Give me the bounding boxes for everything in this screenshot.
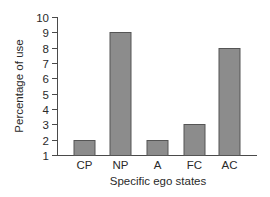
y-tick-label: 6 xyxy=(43,73,49,85)
bar-fc xyxy=(184,125,205,156)
y-tick-label: 2 xyxy=(43,135,49,147)
y-tick-label: 7 xyxy=(43,58,49,70)
y-tick-label: 3 xyxy=(43,119,49,131)
x-axis-title: Specific ego states xyxy=(110,175,207,187)
y-tick-label: 1 xyxy=(43,150,49,162)
y-tick-label: 9 xyxy=(43,27,49,39)
x-tick-label: AC xyxy=(222,159,238,171)
x-tick-label: NP xyxy=(113,159,129,171)
y-tick-label: 10 xyxy=(36,12,49,24)
bar-chart: 12345678910 CPNPAFCAC Percentage of use … xyxy=(0,0,270,197)
y-axis: 12345678910 xyxy=(36,12,57,162)
bar-a xyxy=(147,141,168,156)
x-axis: CPNPAFCAC xyxy=(57,156,257,172)
y-tick-label: 4 xyxy=(43,104,50,116)
y-axis-title: Percentage of use xyxy=(13,39,25,132)
x-tick-label: A xyxy=(154,159,162,171)
bars xyxy=(74,33,240,156)
y-tick-label: 5 xyxy=(43,89,49,101)
y-tick-label: 8 xyxy=(43,43,49,55)
bar-cp xyxy=(74,141,95,156)
x-tick-label: FC xyxy=(187,159,202,171)
bar-ac xyxy=(219,49,240,156)
bar-np xyxy=(110,33,131,156)
x-tick-label: CP xyxy=(77,159,93,171)
